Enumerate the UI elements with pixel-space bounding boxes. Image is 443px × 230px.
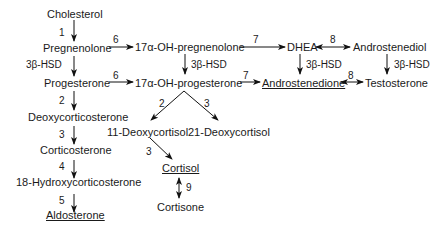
node-cortisol: Cortisol	[162, 162, 199, 174]
node-aldosterone: Aldosterone	[46, 209, 105, 221]
node-21-deoxycortisol: 21-Deoxycortisol	[188, 126, 270, 138]
node-pregnenolone: Pregnenolone	[43, 42, 112, 54]
enzyme-label-5: 5	[59, 195, 65, 206]
node-cholesterol: Cholesterol	[47, 8, 103, 20]
enzyme-label-7-bottom: 7	[243, 70, 249, 81]
enzyme-label-3-branch: 3	[204, 98, 210, 109]
enzyme-label-6-top: 6	[113, 34, 119, 45]
enzyme-label-3bhsd-right: 3β-HSD	[394, 59, 430, 70]
enzyme-label-1: 1	[59, 27, 65, 38]
node-androstenedione: Androstenedione	[262, 77, 345, 89]
node-dhea: DHEA	[287, 41, 318, 53]
enzyme-label-7-top: 7	[253, 34, 259, 45]
enzyme-label-3bhsd-left: 3β-HSD	[26, 59, 62, 70]
enzyme-label-3bhsd-dhea: 3β-HSD	[306, 59, 342, 70]
enzyme-label-4: 4	[59, 161, 65, 172]
node-17oh-pregnenolone: 17α-OH-pregnenolone	[135, 41, 245, 53]
enzyme-label-2-branch: 2	[159, 98, 165, 109]
enzyme-label-9: 9	[186, 182, 192, 193]
node-androstenediol: Androstenediol	[353, 41, 426, 53]
enzyme-label-8-bottom: 8	[348, 70, 354, 81]
node-corticosterone: Corticosterone	[40, 144, 112, 156]
enzyme-label-3-cortisol: 3	[146, 146, 152, 157]
enzyme-label-3-left: 3	[59, 129, 65, 140]
enzyme-label-8-top: 8	[330, 34, 336, 45]
enzyme-label-3bhsd-middle: 3β-HSD	[191, 59, 227, 70]
enzyme-label-6-bottom: 6	[113, 70, 119, 81]
node-17oh-progesterone: 17α-OH-progesterone	[135, 77, 242, 89]
node-deoxycorticosterone: Deoxycorticosterone	[28, 111, 128, 123]
node-testosterone: Testosterone	[365, 77, 428, 89]
node-cortisone: Cortisone	[157, 201, 204, 213]
enzyme-label-2-left: 2	[59, 95, 65, 106]
node-18-hydroxycorticosterone: 18-Hydroxycorticosterone	[16, 176, 141, 188]
node-11-deoxycortisol: 11-Deoxycortisol	[107, 126, 188, 138]
node-progesterone: Progesterone	[44, 77, 110, 89]
